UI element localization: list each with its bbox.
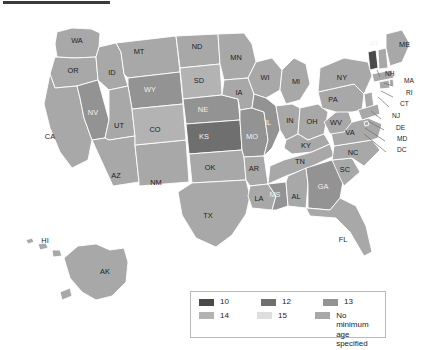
state-label-dc: DC [397, 146, 407, 153]
state-ks[interactable] [186, 120, 242, 154]
state-label-or: OR [67, 66, 78, 75]
state-label-mt: MT [134, 47, 145, 56]
legend-swatch-icon [199, 312, 214, 319]
state-label-il: IL [265, 118, 271, 127]
state-label-ok: OK [205, 163, 216, 172]
state-label-ga: GA [318, 182, 329, 191]
state-label-nc: NC [348, 148, 359, 157]
state-label-vt: VT [370, 40, 378, 47]
legend-row: 10 12 13 [199, 297, 379, 307]
legend-label: 12 [282, 297, 291, 307]
state-label-wv: WV [330, 118, 342, 127]
state-label-ky: KY [301, 141, 311, 150]
state-label-pa: PA [328, 95, 337, 104]
legend-item: 12 [261, 297, 323, 307]
map-legend: 10 12 13 14 15 No minimum age speci [190, 291, 386, 338]
state-mt[interactable] [116, 36, 180, 78]
state-label-hi: HI [41, 236, 48, 245]
state-label-me: ME [399, 40, 410, 49]
state-vt[interactable] [368, 50, 378, 70]
state-label-ia: IA [236, 88, 243, 97]
map-figure: WAORCANVIDMTWYUTAZNMCONDSDNEKSOKTXMNIAMO… [0, 0, 426, 350]
legend-label: 10 [220, 297, 229, 307]
state-label-az: AZ [111, 171, 121, 180]
state-label-va: VA [345, 128, 354, 137]
state-label-ri: RI [406, 89, 413, 96]
legend-item: 14 [199, 311, 257, 321]
legend-swatch-icon [261, 299, 276, 306]
state-label-tn: TN [295, 157, 305, 166]
state-label-sc: SC [340, 165, 351, 174]
state-label-oh: OH [306, 117, 317, 126]
state-label-in: IN [286, 116, 293, 125]
state-label-la: LA [254, 194, 263, 203]
state-ok[interactable] [189, 150, 246, 183]
state-label-nv: NV [88, 108, 98, 117]
state-label-wy: WY [144, 85, 156, 94]
state-label-ct: CT [400, 100, 409, 107]
state-dc[interactable] [364, 121, 369, 126]
state-nd[interactable] [176, 34, 220, 68]
legend-swatch-icon [315, 312, 330, 319]
legend-label: 14 [220, 311, 229, 321]
state-ne[interactable] [183, 95, 240, 124]
state-label-mn: MN [230, 53, 242, 62]
state-label-ks: KS [199, 132, 209, 141]
state-label-ne: NE [198, 105, 208, 114]
state-label-ms: MS [269, 190, 280, 199]
state-label-id: ID [108, 68, 115, 77]
state-label-mi: MI [292, 77, 300, 86]
state-label-wi: WI [260, 73, 269, 82]
state-label-mo: MO [246, 132, 258, 141]
state-nm[interactable] [135, 140, 189, 186]
state-label-ma: MA [404, 77, 414, 84]
state-tx[interactable] [178, 180, 250, 247]
legend-swatch-icon [323, 299, 338, 306]
state-label-fl: FL [339, 235, 348, 244]
legend-item: 15 [257, 311, 315, 321]
state-label-nj: NJ [392, 112, 400, 119]
state-label-tx: TX [203, 211, 213, 220]
state-label-de: DE [396, 124, 406, 131]
state-label-al: AL [291, 192, 300, 201]
state-label-nm: NM [150, 178, 162, 187]
state-label-nh: NH [385, 70, 395, 77]
state-label-ak: AK [100, 267, 110, 276]
state-ak[interactable] [60, 244, 128, 300]
state-label-ca: CA [45, 132, 55, 141]
state-label-nd: ND [192, 42, 203, 51]
state-label-ny: NY [337, 73, 347, 82]
legend-label: 15 [278, 311, 287, 321]
state-label-co: CO [149, 125, 160, 134]
state-label-ut: UT [114, 121, 124, 130]
legend-label: 13 [344, 297, 353, 307]
legend-row: 14 15 No minimum age specified [199, 311, 379, 349]
legend-swatch-icon [199, 299, 214, 306]
legend-item: No minimum age specified [315, 311, 379, 349]
legend-label: No minimum age specified [336, 311, 379, 349]
state-label-md: MD [397, 135, 407, 142]
state-label-wa: WA [71, 36, 83, 45]
legend-item: 10 [199, 297, 261, 307]
state-label-sd: SD [194, 76, 204, 85]
state-label-ar: AR [249, 164, 259, 173]
legend-item: 13 [323, 297, 353, 307]
legend-swatch-icon [257, 312, 272, 319]
